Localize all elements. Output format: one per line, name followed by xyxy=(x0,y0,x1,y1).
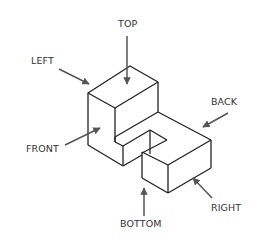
front-arrow-icon xyxy=(65,128,100,145)
label-top: TOP xyxy=(118,18,137,29)
label-front: FRONT xyxy=(26,143,59,154)
right-arrow-icon xyxy=(193,178,212,198)
back-arrow-icon xyxy=(203,113,228,127)
label-left: LEFT xyxy=(31,55,54,66)
label-bottom: BOTTOM xyxy=(120,218,162,229)
label-back: BACK xyxy=(211,96,237,107)
view-arrows xyxy=(59,36,228,216)
object-outline xyxy=(88,66,211,193)
left-arrow-icon xyxy=(59,69,89,84)
label-right: RIGHT xyxy=(211,202,241,213)
